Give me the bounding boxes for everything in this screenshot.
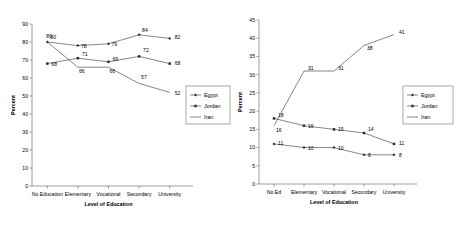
y-tick-label: 30 xyxy=(22,129,28,135)
data-label-jordan: 69 xyxy=(113,56,119,62)
x-category-label: University xyxy=(383,189,406,195)
data-label-iran: 66 xyxy=(110,68,116,74)
y-tick-label: 40 xyxy=(249,35,255,41)
data-label-iran: 38 xyxy=(367,45,373,51)
data-label-egypt: 10 xyxy=(308,145,314,151)
x-category-label: No Ed xyxy=(267,189,282,195)
y-tick-label: 60 xyxy=(22,75,28,81)
data-label-iran: 52 xyxy=(175,90,181,96)
y-tick-label: 50 xyxy=(22,93,28,99)
legend-marker-square-icon xyxy=(411,105,414,108)
y-tick-label: 90 xyxy=(22,21,28,27)
data-label-jordan: 15 xyxy=(338,126,344,132)
legend-label-jordan: Jordan xyxy=(204,103,220,109)
y-tick-label: 40 xyxy=(22,111,28,117)
x-category-label: University xyxy=(158,191,181,197)
data-label-jordan: 68 xyxy=(51,61,57,67)
marker-jordan xyxy=(46,62,49,65)
marker-jordan xyxy=(138,55,141,58)
marker-egypt xyxy=(273,142,276,145)
line-chart-left: 0102030405060708090No EducationElementar… xyxy=(0,0,231,231)
y-tick-label: 0 xyxy=(25,183,28,189)
series-line-egypt xyxy=(274,144,394,155)
data-label-iran: 16 xyxy=(276,127,282,133)
legend-label-iran: Iran xyxy=(204,114,213,120)
marker-jordan xyxy=(168,62,171,65)
figure-container: 0102030405060708090No EducationElementar… xyxy=(0,0,462,231)
marker-egypt xyxy=(303,146,306,149)
y-axis-title: Percent xyxy=(10,95,16,115)
marker-jordan xyxy=(303,124,306,127)
legend: EgyptJordanIran xyxy=(186,86,230,124)
data-label-jordan: 14 xyxy=(368,126,374,132)
y-tick-label: 20 xyxy=(22,147,28,153)
data-label-egypt: 78 xyxy=(81,43,87,49)
chart-panel-left: 0102030405060708090No EducationElementar… xyxy=(0,0,231,231)
data-label-iran: 57 xyxy=(141,74,147,80)
y-tick-label: 45 xyxy=(249,17,255,23)
x-axis-title: Level of Education xyxy=(85,201,133,207)
data-label-jordan: 68 xyxy=(175,60,181,66)
marker-egypt xyxy=(363,153,366,156)
series-line-iran xyxy=(47,42,169,92)
data-label-egypt: 84 xyxy=(142,27,148,33)
marker-egypt xyxy=(333,146,336,149)
y-tick-label: 0 xyxy=(252,181,255,187)
marker-jordan xyxy=(107,61,110,64)
data-label-egypt: 8 xyxy=(368,152,371,158)
legend: EgyptJordanIran xyxy=(403,86,453,124)
y-tick-label: 80 xyxy=(22,39,28,45)
x-category-label: No Education xyxy=(32,191,63,197)
marker-egypt xyxy=(168,37,171,40)
y-tick-label: 30 xyxy=(249,72,255,78)
series-line-jordan xyxy=(274,118,394,144)
legend-marker-square-icon xyxy=(194,105,197,108)
marker-jordan xyxy=(363,132,366,135)
x-category-label: Elementary xyxy=(291,189,318,195)
y-tick-label: 10 xyxy=(249,144,255,150)
data-label-iran: 41 xyxy=(399,29,405,35)
marker-jordan xyxy=(333,128,336,131)
data-label-egypt: 8 xyxy=(399,152,402,158)
marker-egypt xyxy=(393,153,396,156)
chart-panel-right: 051015202530354045No EdElementaryVocatio… xyxy=(231,0,462,231)
data-label-egypt: 11 xyxy=(278,140,283,146)
marker-jordan xyxy=(77,57,80,60)
data-label-egypt: 79 xyxy=(112,41,118,47)
y-tick-label: 70 xyxy=(22,57,28,63)
x-category-label: Elementary xyxy=(65,191,92,197)
data-label-jordan: 72 xyxy=(143,47,149,53)
data-label-iran: 80 xyxy=(50,34,56,40)
y-tick-label: 35 xyxy=(249,53,255,59)
y-tick-label: 10 xyxy=(22,165,28,171)
y-tick-label: 25 xyxy=(249,90,255,96)
x-category-label: Vocational xyxy=(322,189,346,195)
data-label-jordan: 71 xyxy=(82,51,88,57)
marker-egypt xyxy=(138,33,141,36)
y-axis-title: Percent xyxy=(237,92,243,112)
y-tick-label: 5 xyxy=(252,163,255,169)
data-label-jordan: 11 xyxy=(399,140,404,146)
data-label-iran: 31 xyxy=(338,65,344,71)
data-label-egypt: 82 xyxy=(175,34,181,40)
data-label-jordan: 16 xyxy=(308,123,314,129)
data-label-iran: 31 xyxy=(308,65,314,71)
data-label-iran: 66 xyxy=(79,68,85,74)
y-tick-label: 15 xyxy=(249,126,255,132)
series-line-iran xyxy=(274,35,394,126)
x-category-label: Secondary xyxy=(352,189,377,195)
x-axis-title: Level of Education xyxy=(310,199,358,205)
legend-label-egypt: Egypt xyxy=(204,92,218,98)
marker-jordan xyxy=(273,117,276,120)
marker-egypt xyxy=(76,44,79,47)
marker-egypt xyxy=(107,42,110,45)
x-category-label: Secondary xyxy=(127,191,152,197)
marker-jordan xyxy=(393,143,396,146)
line-chart-right: 051015202530354045No EdElementaryVocatio… xyxy=(231,0,462,231)
y-tick-label: 20 xyxy=(249,108,255,114)
data-label-egypt: 10 xyxy=(338,145,344,151)
legend-label-jordan: Jordan xyxy=(421,103,437,109)
x-category-label: Vocational xyxy=(97,191,121,197)
legend-label-iran: Iran xyxy=(421,114,430,120)
legend-label-egypt: Egypt xyxy=(421,92,435,98)
